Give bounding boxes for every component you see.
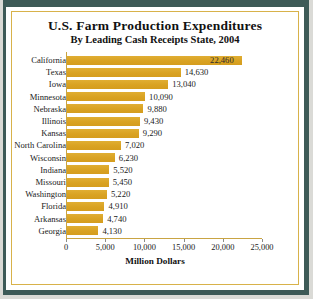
x-axis-tick	[262, 239, 263, 242]
category-label: Kansas	[6, 127, 66, 139]
bar	[66, 80, 168, 89]
x-axis-tick-label: 20,000	[211, 243, 234, 252]
bar-row: Georgia4,130	[6, 225, 304, 237]
bar-row: Florida4,910	[6, 200, 304, 212]
x-axis-tick-label: 10,000	[133, 243, 156, 252]
bar-row: Missouri5,450	[6, 176, 304, 188]
category-label: Arkansas	[6, 213, 66, 225]
bar-value-label: 4,910	[108, 200, 127, 212]
bar	[66, 117, 140, 126]
bar-value-label: 5,220	[111, 188, 130, 200]
x-axis-tick-label: 5,000	[96, 243, 115, 252]
bar-value-label: 13,040	[172, 78, 196, 90]
y-axis-line	[66, 52, 67, 238]
x-axis-tick-label: 25,000	[250, 243, 273, 252]
bar-row: Arkansas4,740	[6, 213, 304, 225]
x-axis-tick	[184, 239, 185, 242]
x-axis-tick	[223, 239, 224, 242]
bar-value-label: 9,290	[143, 127, 162, 139]
category-label: Iowa	[6, 78, 66, 90]
bar-value-label: 9,430	[144, 115, 163, 127]
category-label: Minnesota	[6, 91, 66, 103]
bar	[66, 165, 109, 174]
category-label: Indiana	[6, 164, 66, 176]
bar	[66, 92, 145, 101]
bar	[66, 104, 143, 113]
category-label: Wisconsin	[6, 152, 66, 164]
bar-value-label: 22,460	[210, 54, 234, 66]
bar	[66, 214, 103, 223]
x-axis-tick	[144, 239, 145, 242]
x-axis-tick	[105, 239, 106, 242]
bar-value-label: 5,450	[113, 176, 132, 188]
bar-row: Illinois9,430	[6, 115, 304, 127]
x-axis-tick-label: 15,000	[172, 243, 195, 252]
category-label: Missouri	[6, 176, 66, 188]
x-axis-title: Million Dollars	[6, 256, 304, 266]
bar-row: Kansas9,290	[6, 127, 304, 139]
category-label: Texas	[6, 66, 66, 78]
bar	[66, 226, 98, 235]
x-axis-tick	[66, 239, 67, 242]
bar	[66, 190, 107, 199]
bar-row: Wisconsin6,230	[6, 152, 304, 164]
category-label: Nebraska	[6, 103, 66, 115]
bar-value-label: 4,740	[107, 213, 126, 225]
x-axis-line	[66, 238, 262, 239]
category-label: California	[6, 54, 66, 66]
chart-screenshot: U.S. Farm Production Expenditures By Lea…	[0, 0, 313, 299]
bar-row: Nebraska9,880	[6, 103, 304, 115]
bar-value-label: 9,880	[147, 103, 166, 115]
bar-row: Texas14,630	[6, 66, 304, 78]
chart-sheet: U.S. Farm Production Expenditures By Lea…	[6, 7, 304, 290]
bar-row: Indiana5,520	[6, 164, 304, 176]
bar-row: Washington5,220	[6, 188, 304, 200]
bar	[66, 68, 181, 77]
category-label: Illinois	[6, 115, 66, 127]
category-label: Washington	[6, 188, 66, 200]
plot-area: California22,460Texas14,630Iowa13,040Min…	[6, 7, 304, 290]
category-label: North Carolina	[6, 139, 66, 151]
bar-value-label: 7,020	[125, 139, 144, 151]
bar-row: Minnesota10,090	[6, 91, 304, 103]
bar	[66, 178, 109, 187]
bar-value-label: 10,090	[149, 91, 173, 103]
bar	[66, 141, 121, 150]
bar-value-label: 14,630	[185, 66, 209, 78]
category-label: Florida	[6, 200, 66, 212]
bar-row: North Carolina7,020	[6, 139, 304, 151]
category-label: Georgia	[6, 225, 66, 237]
bar-value-label: 5,520	[113, 164, 132, 176]
bar	[66, 129, 139, 138]
bar-value-label: 4,130	[102, 225, 121, 237]
bar-row: California22,460	[6, 54, 304, 66]
bar-value-label: 6,230	[119, 152, 138, 164]
bar-row: Iowa13,040	[6, 78, 304, 90]
x-axis-tick-label: 0	[64, 243, 68, 252]
bar	[66, 153, 115, 162]
bar	[66, 202, 104, 211]
